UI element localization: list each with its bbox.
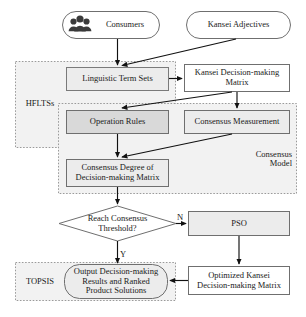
group-topsis-label: TOPSIS — [18, 277, 62, 286]
figure-canvas: Consumers Kansei Adjectives Linguistic T… — [0, 0, 306, 317]
node-consensus-measurement — [185, 111, 290, 134]
node-consumers — [63, 12, 160, 39]
edge-label-no: N — [177, 212, 183, 222]
group-consensus-model-label: Consensus Model — [236, 150, 292, 169]
node-pso — [189, 212, 290, 236]
node-linguistic-term-sets — [67, 68, 169, 91]
edge-label-yes: Y — [120, 249, 126, 259]
node-decision-diamond — [59, 206, 176, 241]
node-optimized-matrix — [189, 267, 290, 295]
group-hflts-label: HFLTSs — [18, 99, 62, 108]
node-output — [65, 265, 168, 299]
node-kansei-adjectives — [187, 12, 291, 39]
node-operation-rules — [67, 111, 169, 134]
node-kansei-decision-matrix — [185, 65, 290, 92]
arrow-kansei-adjectives-to-linguistic — [122, 39, 236, 66]
node-consensus-degree — [67, 160, 169, 187]
